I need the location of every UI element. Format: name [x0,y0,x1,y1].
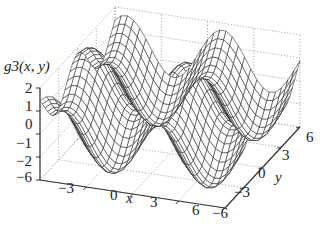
z-tick-2: 2 [25,81,33,96]
x-tick-m3: −3 [58,181,74,196]
x-tick-m6: −6 [16,170,32,185]
x-tick-6: 6 [192,203,200,218]
y-axis-label: y [275,170,282,185]
surface-plot: g3(x, y) 2 1 0 −1 −2 −6 −3 0 x 3 6 −6 −3… [0,0,330,228]
x-tick-0: 0 [110,188,118,203]
z-tick-m1: −1 [16,136,32,151]
surface-mesh [40,16,300,188]
z-tick-m2: −2 [16,154,32,169]
z-tick-1: 1 [25,99,33,114]
plot-canvas [0,0,330,228]
x-axis-label: x [126,191,133,206]
z-axis-label: g3(x, y) [4,59,50,74]
y-tick-6: 6 [306,130,314,145]
x-tick-3: 3 [150,195,158,210]
y-tick-3: 3 [282,148,290,163]
z-tick-0: 0 [25,117,33,132]
y-tick-m3: −3 [234,185,250,200]
y-tick-0: 0 [258,166,266,181]
y-tick-m6: −6 [212,206,228,221]
